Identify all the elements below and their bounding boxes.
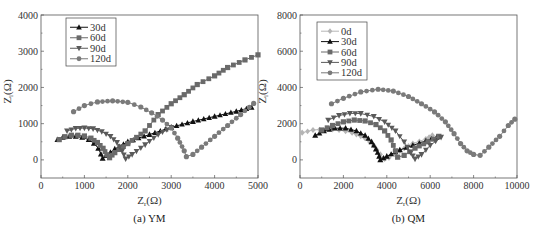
square-marker-icon xyxy=(130,138,135,143)
circle-marker-icon xyxy=(208,138,213,143)
circle-marker-icon xyxy=(386,88,391,93)
x-tick-label: 4000 xyxy=(377,180,397,191)
circle-marker-icon xyxy=(212,134,217,139)
circle-marker-icon xyxy=(172,131,177,136)
circle-marker-icon xyxy=(376,87,381,92)
figure: 01000200030004000500001000200030004000Zr… xyxy=(0,0,538,233)
square-marker-icon xyxy=(138,132,143,137)
circle-marker-icon xyxy=(169,125,174,130)
x-tick-label: 0 xyxy=(39,180,44,191)
square-marker-icon xyxy=(169,101,174,106)
legend-label: 30d xyxy=(341,36,358,47)
circle-marker-icon xyxy=(77,106,82,111)
x-tick-label: 6000 xyxy=(420,180,440,191)
circle-marker-icon xyxy=(164,122,169,127)
square-marker-icon xyxy=(328,50,333,55)
circle-marker-icon xyxy=(230,119,235,124)
square-marker-icon xyxy=(75,133,80,138)
circle-marker-icon xyxy=(125,100,130,105)
circle-marker-icon xyxy=(100,99,105,104)
square-marker-icon xyxy=(143,128,148,133)
triangle-down-marker-icon xyxy=(155,132,161,138)
circle-marker-icon xyxy=(328,70,333,75)
circle-marker-icon xyxy=(490,141,495,146)
series-30d xyxy=(54,104,254,161)
triangle-down-marker-icon xyxy=(376,117,382,122)
circle-marker-icon xyxy=(436,113,441,118)
square-marker-icon xyxy=(368,120,373,125)
circle-marker-icon xyxy=(95,99,100,104)
circle-marker-icon xyxy=(225,123,230,128)
square-marker-icon xyxy=(336,121,341,126)
circle-marker-icon xyxy=(364,89,369,94)
circle-marker-icon xyxy=(77,56,82,61)
circle-marker-icon xyxy=(175,136,180,141)
circle-marker-icon xyxy=(341,96,346,101)
square-marker-icon xyxy=(417,144,422,149)
square-marker-icon xyxy=(164,105,169,110)
circle-marker-icon xyxy=(217,130,222,135)
plot-qm: 020004000600080001000002000400060008000Z… xyxy=(256,10,530,226)
triangle-down-marker-icon xyxy=(134,149,140,154)
circle-marker-icon xyxy=(358,89,363,94)
circle-marker-icon xyxy=(423,104,428,109)
square-marker-icon xyxy=(319,127,324,132)
square-marker-icon xyxy=(125,141,130,146)
circle-marker-icon xyxy=(381,87,386,92)
circle-marker-icon xyxy=(410,97,415,102)
square-marker-icon xyxy=(325,125,330,130)
legend: 0d30d60d90d120d xyxy=(317,22,367,80)
square-marker-icon xyxy=(389,137,394,142)
y-tick-label: 2000 xyxy=(277,118,297,129)
circle-marker-icon xyxy=(89,101,94,106)
circle-marker-icon xyxy=(234,116,239,121)
triangle-down-marker-icon xyxy=(401,139,407,145)
square-marker-icon xyxy=(249,55,254,60)
circle-marker-icon xyxy=(199,145,204,150)
square-marker-icon xyxy=(391,143,396,148)
y-tick-label: 4000 xyxy=(277,82,297,93)
y-axis-label: Zi(Ω) xyxy=(1,79,15,104)
circle-marker-icon xyxy=(195,148,200,153)
circle-marker-icon xyxy=(428,107,433,112)
circle-marker-icon xyxy=(247,105,252,110)
square-marker-icon xyxy=(186,89,191,94)
square-marker-icon xyxy=(217,71,222,76)
square-marker-icon xyxy=(393,148,398,153)
legend-label: 120d xyxy=(341,67,363,78)
legend-label: 60d xyxy=(90,32,107,43)
circle-marker-icon xyxy=(177,140,182,145)
triangle-down-marker-icon xyxy=(371,114,377,120)
circle-marker-icon xyxy=(455,136,460,141)
diamond-marker-icon xyxy=(305,128,310,134)
square-marker-icon xyxy=(382,128,387,133)
square-marker-icon xyxy=(191,86,196,91)
square-marker-icon xyxy=(112,150,117,155)
circle-marker-icon xyxy=(512,117,517,122)
legend-label: 60d xyxy=(341,47,358,58)
square-marker-icon xyxy=(173,98,178,103)
square-marker-icon xyxy=(147,123,152,128)
square-marker-icon xyxy=(352,117,357,122)
square-marker-icon xyxy=(151,118,156,123)
plot-ym: 01000200030004000500001000200030004000Zr… xyxy=(1,10,268,226)
square-marker-icon xyxy=(363,118,368,123)
circle-marker-icon xyxy=(396,90,401,95)
x-tick-label: 4000 xyxy=(205,180,225,191)
circle-marker-icon xyxy=(329,101,334,106)
circle-marker-icon xyxy=(482,149,487,154)
x-tick-label: 1000 xyxy=(74,180,94,191)
square-marker-icon xyxy=(177,95,182,100)
square-marker-icon xyxy=(212,73,217,78)
circle-marker-icon xyxy=(494,138,499,143)
square-marker-icon xyxy=(221,68,226,73)
triangle-down-marker-icon xyxy=(138,146,144,151)
square-marker-icon xyxy=(395,155,400,160)
legend-label: 0d xyxy=(341,26,352,37)
circle-marker-icon xyxy=(105,99,110,104)
x-axis-label: Zr(Ω) xyxy=(396,194,421,208)
square-marker-icon xyxy=(255,52,260,57)
y-tick-label: 0 xyxy=(33,154,38,165)
circle-marker-icon xyxy=(446,123,451,128)
x-tick-label: 8000 xyxy=(464,180,484,191)
